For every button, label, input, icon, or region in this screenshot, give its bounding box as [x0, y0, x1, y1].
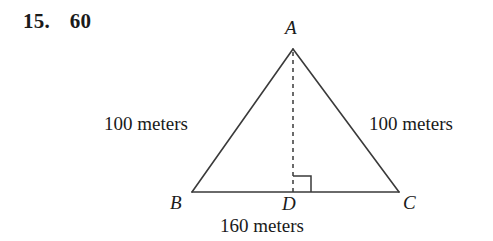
side-length-label-left: 100 meters	[104, 113, 188, 135]
answer-value: 60	[70, 8, 91, 34]
vertex-label-c: C	[403, 193, 416, 212]
vertex-label-a: A	[285, 18, 297, 37]
right-angle-marker-icon	[293, 176, 311, 192]
figure-page: 15. 60 A B C D 100 meters 100 meters 160…	[0, 0, 493, 241]
vertex-label-b: B	[170, 193, 182, 212]
side-length-label-base: 160 meters	[220, 215, 304, 237]
side-length-label-right: 100 meters	[369, 113, 453, 135]
vertex-label-d: D	[282, 194, 296, 213]
triangle-side-ab	[192, 49, 293, 192]
question-number: 15.	[23, 8, 50, 34]
